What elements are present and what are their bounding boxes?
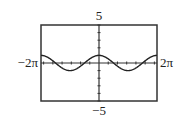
xmax-label: 2π [160, 55, 174, 70]
ymin-label: −5 [92, 103, 106, 118]
ymax-label: 5 [96, 8, 103, 23]
graph-window: 5 −5 −2π 2π [0, 0, 187, 121]
xmin-label: −2π [18, 55, 39, 70]
